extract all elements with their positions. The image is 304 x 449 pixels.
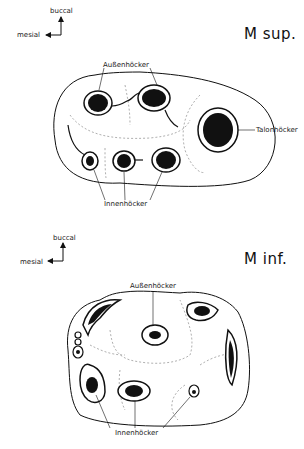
lower-buccal-label: buccal	[53, 234, 76, 242]
upper-title: M sup.	[244, 25, 296, 43]
lower-molar	[67, 291, 249, 428]
upper-molar	[54, 68, 275, 200]
lower-outer-cusp-label: Außenhöcker	[130, 282, 176, 290]
lower-orientation-arrows	[48, 243, 63, 261]
molar-diagram	[0, 0, 304, 449]
lower-inner-cusp-label: Innenhöcker	[115, 429, 158, 437]
lower-mesial-label: mesial	[20, 258, 43, 266]
upper-mesial-label: mesial	[17, 31, 40, 39]
upper-outer-cusp-label: Außenhöcker	[103, 61, 149, 69]
upper-buccal-label: buccal	[50, 7, 73, 15]
lower-title: M inf.	[244, 250, 287, 268]
upper-inner-cusp-label: Innenhöcker	[104, 200, 147, 208]
upper-orientation-arrows	[46, 17, 61, 35]
upper-talon-cusp-label: Talonhöcker	[256, 126, 298, 134]
